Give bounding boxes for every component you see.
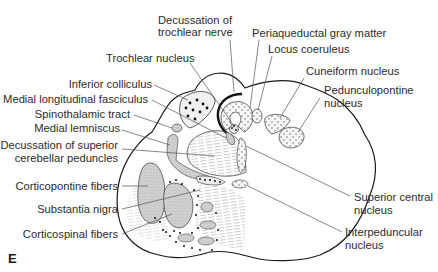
- spinothalamic-tract: [172, 124, 182, 132]
- label-inferior-colliculus: Inferior colliculus: [69, 78, 152, 91]
- label-corticopontine-fibers: Corticopontine fibers: [15, 180, 118, 193]
- label-mlf: Medial longitudinal fasciculus: [3, 93, 148, 106]
- label-decussation-scp-2: cerebellar peduncles: [15, 152, 118, 165]
- label-decussation-trochlear-2: trochlear nerve: [158, 26, 233, 39]
- superior-central-nucleus: [237, 138, 246, 173]
- locus-coeruleus: [252, 109, 262, 123]
- label-medial-lemniscus: Medial lemniscus: [34, 122, 120, 135]
- label-superior-central-2: nucleus: [354, 204, 393, 217]
- label-trochlear-nucleus: Trochlear nucleus: [106, 52, 195, 65]
- label-decussation-scp-1: Decussation of superior: [0, 139, 118, 152]
- label-pedunculopontine-2: nucleus: [324, 97, 363, 110]
- corticopontine-fibers: [138, 163, 165, 223]
- label-corticospinal-fibers: Corticospinal fibers: [23, 228, 118, 241]
- label-interpeduncular-2: nucleus: [345, 239, 384, 252]
- pedunculopontine-nucleus: [279, 127, 304, 148]
- interpeduncular-nucleus: [232, 180, 248, 188]
- label-interpeduncular-1: Interpeduncular: [345, 226, 423, 239]
- panel-letter: E: [8, 251, 17, 266]
- label-locus-coeruleus: Locus coeruleus: [268, 43, 349, 56]
- label-cuneiform-nucleus: Cuneiform nucleus: [306, 65, 399, 78]
- label-pedunculopontine-1: Pedunculopontine: [324, 84, 414, 97]
- label-superior-central-1: Superior central: [354, 191, 433, 204]
- label-substantia-nigra: Substantia nigra: [37, 203, 118, 216]
- label-periaqueductal-gray: Periaqueductal gray matter: [252, 27, 386, 40]
- label-spinothalamic-tract: Spinothalamic tract: [35, 108, 130, 121]
